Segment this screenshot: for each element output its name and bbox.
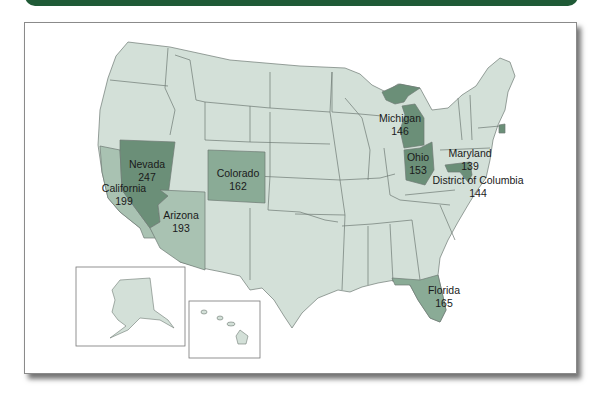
label-ohio-value: 153 xyxy=(409,164,427,176)
label-nevada-name: Nevada xyxy=(129,158,165,170)
label-colorado-name: Colorado xyxy=(217,167,260,179)
label-dc-name: District of Columbia xyxy=(432,174,523,186)
label-michigan-name: Michigan xyxy=(379,112,421,124)
label-ohio-name: Ohio xyxy=(407,151,429,163)
label-florida-value: 165 xyxy=(435,297,453,309)
label-michigan-value: 146 xyxy=(391,125,409,137)
label-colorado-value: 162 xyxy=(229,180,247,192)
label-florida-name: Florida xyxy=(428,284,460,296)
hawaii-inset xyxy=(189,301,260,358)
label-dc-value: 144 xyxy=(469,187,487,199)
label-arizona-name: Arizona xyxy=(163,209,199,221)
us-map: Nevada 247 California 199 Arizona 193 Co… xyxy=(0,0,604,400)
label-california-name: California xyxy=(102,182,147,194)
label-maryland-value: 139 xyxy=(461,160,479,172)
state-rhode-island[interactable] xyxy=(499,124,505,133)
label-maryland-name: Maryland xyxy=(448,147,491,159)
label-arizona-value: 193 xyxy=(172,222,190,234)
label-california-value: 199 xyxy=(115,195,133,207)
